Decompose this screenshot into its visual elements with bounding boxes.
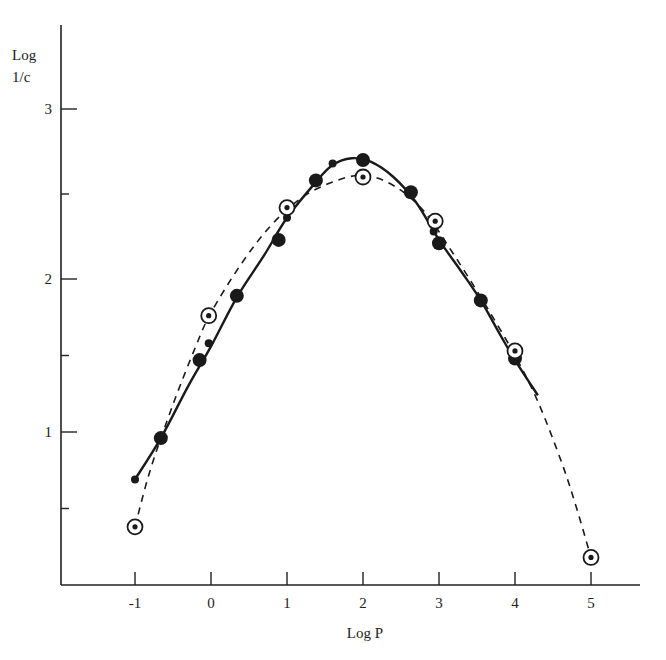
solid-fit-curve — [135, 158, 538, 479]
y-tick-label: 3 — [45, 101, 53, 117]
x-tick-label: 0 — [207, 595, 215, 611]
x-tick-label: 4 — [511, 595, 519, 611]
x-tick-label: 2 — [359, 595, 367, 611]
small-filled-marker — [131, 475, 139, 483]
large-filled-marker — [230, 289, 244, 303]
chart-plot: -1012345123 Log P — [0, 0, 666, 660]
open-circle-dot — [512, 348, 517, 353]
x-tick-label: -1 — [129, 595, 142, 611]
large-filled-marker — [154, 431, 168, 445]
data-markers — [128, 153, 599, 565]
large-filled-marker — [432, 236, 446, 250]
x-tick-label: 1 — [283, 595, 291, 611]
small-filled-marker — [329, 159, 337, 167]
small-filled-marker — [205, 339, 213, 347]
x-tick-label: 5 — [587, 595, 595, 611]
large-filled-marker — [404, 185, 418, 199]
large-filled-marker — [309, 173, 323, 187]
open-circle-dot — [588, 555, 593, 560]
open-circle-dot — [206, 313, 211, 318]
large-filled-marker — [474, 293, 488, 307]
y-tick-label: 1 — [45, 424, 53, 440]
large-filled-marker — [356, 153, 370, 167]
y-tick-label: 2 — [45, 271, 53, 287]
open-circle-dot — [433, 219, 438, 224]
x-tick-label: 3 — [435, 595, 443, 611]
open-circle-dot — [360, 174, 365, 179]
dashed-fit-curve — [135, 175, 591, 557]
large-filled-marker — [272, 233, 286, 247]
open-circle-dot — [284, 205, 289, 210]
large-filled-marker — [193, 353, 207, 367]
open-circle-dot — [132, 524, 137, 529]
x-axis-title: Log P — [347, 625, 383, 641]
